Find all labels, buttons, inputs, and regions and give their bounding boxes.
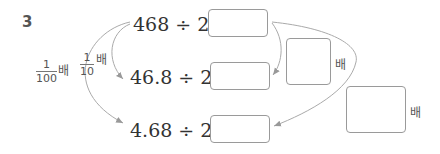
unit-hundredth: 배 [58, 61, 69, 78]
unit-right-1: 배 [335, 55, 346, 72]
answer-box-2[interactable] [210, 62, 270, 90]
answer-box-3[interactable] [210, 115, 270, 143]
unit-right-2: 배 [410, 103, 421, 120]
unit-tenth: 배 [96, 50, 107, 67]
fraction-hundredth: 1 100 [36, 59, 57, 84]
answer-box-1[interactable] [208, 9, 268, 37]
arrow-right-first [272, 23, 281, 75]
multiplier-box-2[interactable] [346, 86, 406, 133]
problem-number: 3 [22, 13, 32, 31]
multiplier-box-1[interactable] [286, 38, 331, 85]
fraction-tenth: 1 10 [80, 52, 94, 77]
arrow-left-tenth [112, 24, 130, 79]
